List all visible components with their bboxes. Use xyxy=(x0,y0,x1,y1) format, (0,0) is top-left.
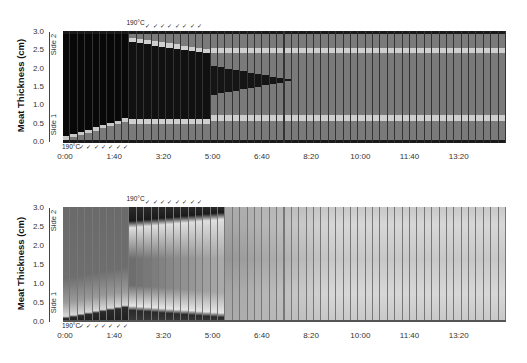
x-tick-label: 10:00 xyxy=(350,331,370,340)
heatmap-column xyxy=(307,207,313,322)
heatmap-column xyxy=(447,207,453,322)
heatmap-column xyxy=(314,207,320,322)
heatmap-column xyxy=(107,207,113,322)
heatmap-column xyxy=(277,207,283,322)
heatmap-column xyxy=(292,207,298,322)
heatmap-column xyxy=(425,207,431,322)
flip-marker-icon: ✓ xyxy=(182,198,187,205)
heatmap-column xyxy=(233,207,239,322)
heatmap-column xyxy=(432,207,438,322)
heatmap-column xyxy=(358,207,364,322)
y-tick-label: 1.0 xyxy=(22,279,44,288)
heatmap-column xyxy=(484,207,490,322)
x-tick-label: 11:40 xyxy=(400,331,419,340)
y-tick-label: 3.0 xyxy=(22,203,44,212)
heatmap-column xyxy=(380,207,386,322)
heatmap-column xyxy=(137,207,143,322)
heatmap-column xyxy=(189,207,195,322)
heatmap-column xyxy=(440,207,446,322)
heatmap-column xyxy=(351,207,357,322)
heatmap-column xyxy=(454,207,460,322)
heatmap-column xyxy=(395,207,401,322)
x-tick-label: 6:40 xyxy=(254,331,270,340)
flip-marker-icon: ✓ xyxy=(94,322,99,329)
side-2-label: Side 2 xyxy=(49,206,58,236)
bottom-heatmap-panel: Meat Thickness (cm) 0.00.51.01.52.02.53.… xyxy=(0,0,527,363)
y-tick-label: 0.0 xyxy=(22,317,44,326)
heatmap-column xyxy=(366,207,372,322)
heatmap-column xyxy=(410,207,416,322)
heatmap-column xyxy=(181,207,187,322)
flip-marker-icon: ✓ xyxy=(79,322,84,329)
heatmap-column xyxy=(152,207,158,322)
bottom-heatmap-plot xyxy=(63,207,506,322)
flip-marker-icon: ✓ xyxy=(116,322,121,329)
heatmap-column xyxy=(491,207,497,322)
heatmap-column xyxy=(270,207,276,322)
heatmap-column xyxy=(122,207,128,322)
heatmap-column xyxy=(218,207,224,322)
heatmap-column xyxy=(499,207,505,322)
heatmap-column xyxy=(115,207,121,322)
heatmap-column xyxy=(166,207,172,322)
heatmap-column xyxy=(255,207,261,322)
x-tick-label: 0:00 xyxy=(57,331,73,340)
heatmap-column xyxy=(373,207,379,322)
y-tick-label: 1.5 xyxy=(22,260,44,269)
y-tick-label: 0.5 xyxy=(22,298,44,307)
x-tick-label: 5:00 xyxy=(205,331,221,340)
heatmap-column xyxy=(469,207,475,322)
flip-marker-icon: ✓ xyxy=(145,198,150,205)
x-tick-label: 3:20 xyxy=(156,331,172,340)
heatmap-column xyxy=(476,207,482,322)
heatmap-column xyxy=(159,207,165,322)
side-1-temp-label: 190°C xyxy=(62,322,80,329)
heatmap-column xyxy=(285,207,291,322)
heatmap-column xyxy=(211,207,217,322)
x-axis-baseline xyxy=(63,320,506,322)
flip-marker-icon: ✓ xyxy=(101,322,106,329)
heatmap-column xyxy=(262,207,268,322)
x-tick-label: 8:20 xyxy=(303,331,319,340)
x-tick-label: 13:20 xyxy=(449,331,469,340)
heatmap-column xyxy=(196,207,202,322)
flip-marker-icon: ✓ xyxy=(160,198,165,205)
heatmap-column xyxy=(388,207,394,322)
heatmap-column xyxy=(403,207,409,322)
flip-marker-icon: ✓ xyxy=(123,322,128,329)
flip-marker-icon: ✓ xyxy=(167,198,172,205)
side-1-label: Side 1 xyxy=(49,288,58,318)
flip-marker-icon: ✓ xyxy=(108,322,113,329)
heatmap-column xyxy=(299,207,305,322)
heatmap-column xyxy=(240,207,246,322)
flip-marker-icon: ✓ xyxy=(175,198,180,205)
heatmap-column xyxy=(248,207,254,322)
heatmap-column xyxy=(144,207,150,322)
heatmap-column xyxy=(85,207,91,322)
side-2-temp-label: 190°C xyxy=(126,195,144,202)
heatmap-column xyxy=(225,207,231,322)
heatmap-column xyxy=(100,207,106,322)
heatmap-column xyxy=(462,207,468,322)
flip-marker-icon: ✓ xyxy=(190,198,195,205)
flip-marker-icon: ✓ xyxy=(197,198,202,205)
x-tick-label: 1:40 xyxy=(106,331,122,340)
heatmap-column xyxy=(344,207,350,322)
heatmap-column xyxy=(174,207,180,322)
flip-marker-icon: ✓ xyxy=(153,198,158,205)
heatmap-column xyxy=(321,207,327,322)
y-tick-label: 2.5 xyxy=(22,222,44,231)
heatmap-column xyxy=(78,207,84,322)
heatmap-column xyxy=(129,207,135,322)
heatmap-column xyxy=(336,207,342,322)
heatmap-column xyxy=(203,207,209,322)
heatmap-column xyxy=(329,207,335,322)
heatmap-column xyxy=(417,207,423,322)
heatmap-column xyxy=(63,207,69,322)
y-tick-label: 2.0 xyxy=(22,241,44,250)
heatmap-column xyxy=(70,207,76,322)
flip-marker-icon: ✓ xyxy=(86,322,91,329)
heatmap-column xyxy=(93,207,99,322)
